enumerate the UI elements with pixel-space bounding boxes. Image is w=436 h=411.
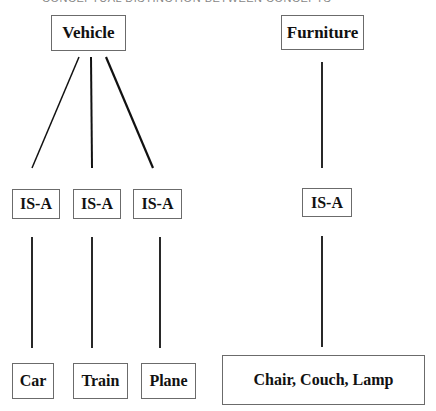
node-isa-1: IS-A xyxy=(12,189,60,219)
node-isa-3: IS-A xyxy=(133,189,182,219)
node-train: Train xyxy=(73,363,128,399)
edge-vehicle-isa3 xyxy=(106,57,153,168)
node-vehicle: Vehicle xyxy=(51,15,126,51)
node-plane: Plane xyxy=(141,363,196,399)
node-furniture: Furniture xyxy=(281,15,364,50)
edge-vehicle-isa2 xyxy=(91,57,92,168)
node-isa-2: IS-A xyxy=(73,189,121,219)
node-isa-4: IS-A xyxy=(302,188,352,217)
connector-lines xyxy=(0,0,436,411)
node-car: Car xyxy=(12,363,54,399)
node-furniture-items: Chair, Couch, Lamp xyxy=(222,355,425,405)
edge-vehicle-isa1 xyxy=(32,57,79,168)
